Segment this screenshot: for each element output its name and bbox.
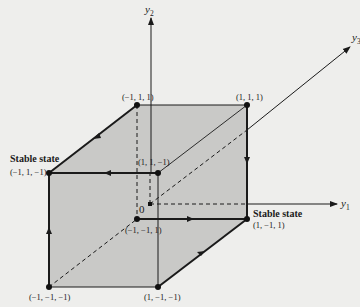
vertex-1-m1-1 — [244, 216, 250, 222]
vertex-1-m1-m1 — [155, 284, 161, 290]
vertex-1-1-1 — [244, 102, 250, 108]
stable-state-label-left: Stable state — [10, 153, 60, 164]
y1-axis-label: y1 — [340, 197, 350, 212]
vertex-label-m1-m1-1: (−1, −1, 1) — [125, 225, 162, 235]
y3-axis-label: y3 — [351, 31, 360, 46]
vertex-m1-1-m1 — [46, 170, 52, 176]
cube-silhouette-fill — [49, 105, 247, 287]
stable-state-label-right: Stable state — [253, 208, 303, 219]
y3-axis — [247, 47, 350, 130]
vertex-m1-m1-m1 — [46, 284, 52, 290]
origin-marker — [148, 202, 152, 206]
vertex-label-m1-1-m1: (−1, 1, −1) — [10, 167, 47, 177]
vertex-1-1-m1 — [155, 170, 161, 176]
y2-axis-label: y2 — [144, 3, 154, 18]
vertex-label-m1-m1-m1: (−1, −1, −1) — [29, 292, 70, 302]
vertex-label-1-m1-1: (1, −1, 1) — [253, 220, 285, 230]
vertex-label-1-m1-m1: (1, −1, −1) — [144, 292, 181, 302]
vertex-label-m1-1-1: (−1, 1, 1) — [122, 92, 154, 102]
origin-label: 0 — [139, 203, 145, 215]
vertex-m1-1-1 — [134, 102, 140, 108]
vertex-m1-m1-1 — [134, 216, 140, 222]
vertex-label-1-1-m1: (1, 1, −1) — [138, 157, 170, 167]
hopfield-state-cube-diagram: y2 y1 y3 0 (−1, 1, 1) (1, 1, 1) Stable s… — [0, 0, 360, 307]
vertex-label-1-1-1: (1, 1, 1) — [236, 92, 263, 102]
cube-faces — [49, 105, 247, 287]
